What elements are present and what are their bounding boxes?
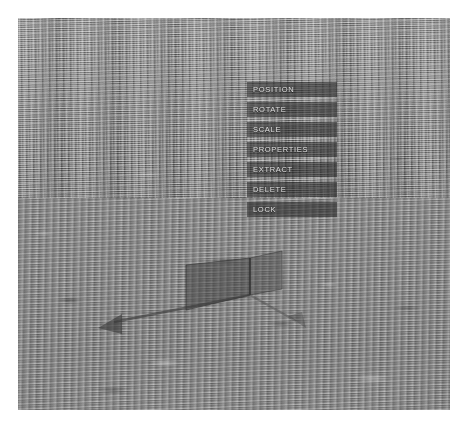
menu-item-label: LOCK bbox=[253, 205, 276, 214]
app-root: POSITION ROTATE SCALE PROPERTIES EXTRACT… bbox=[0, 0, 466, 426]
menu-item-label: PROPERTIES bbox=[253, 145, 308, 154]
object-context-menu[interactable]: POSITION ROTATE SCALE PROPERTIES EXTRACT… bbox=[247, 82, 337, 217]
menu-item-label: POSITION bbox=[253, 85, 294, 94]
menu-item-scale[interactable]: SCALE bbox=[247, 122, 337, 137]
menu-item-extract[interactable]: EXTRACT bbox=[247, 162, 337, 177]
menu-item-label: SCALE bbox=[253, 125, 281, 134]
terrain-viewport[interactable]: POSITION ROTATE SCALE PROPERTIES EXTRACT… bbox=[18, 18, 450, 410]
menu-item-lock[interactable]: LOCK bbox=[247, 202, 337, 217]
menu-item-delete[interactable]: DELETE bbox=[247, 182, 337, 197]
menu-item-label: EXTRACT bbox=[253, 165, 293, 174]
menu-item-label: ROTATE bbox=[253, 105, 287, 114]
terrain-vignette bbox=[18, 18, 450, 410]
menu-item-position[interactable]: POSITION bbox=[247, 82, 337, 97]
menu-item-label: DELETE bbox=[253, 185, 286, 194]
menu-item-rotate[interactable]: ROTATE bbox=[247, 102, 337, 117]
menu-item-properties[interactable]: PROPERTIES bbox=[247, 142, 337, 157]
